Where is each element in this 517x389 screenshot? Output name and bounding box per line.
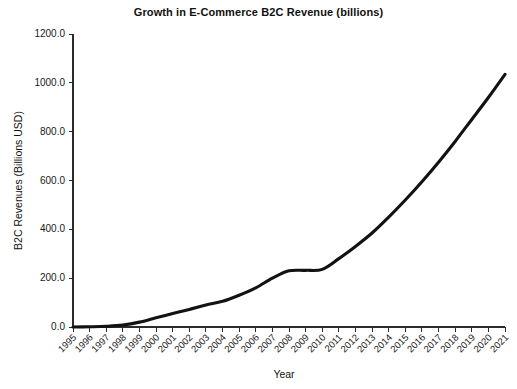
x-axis-title: Year: [273, 368, 295, 380]
y-tick-label: 1200.0: [34, 28, 65, 39]
y-tick-label: 800.0: [40, 126, 65, 137]
y-tick-label: 1000.0: [34, 77, 65, 88]
y-tick-label: 600.0: [40, 175, 65, 186]
line-chart-plot: 0.0200.0400.0600.0800.01000.01200.0 1995…: [0, 0, 517, 389]
revenue-series-line: [73, 74, 505, 327]
y-axis-title: B2C Revenues (Billions USD): [12, 111, 24, 250]
y-tick-label: 400.0: [40, 223, 65, 234]
y-axis-ticks: 0.0200.0400.0600.0800.01000.01200.0: [34, 28, 73, 332]
x-tick-label: 2021: [488, 332, 511, 355]
y-tick-label: 0.0: [51, 321, 65, 332]
chart-container: Growth in E-Commerce B2C Revenue (billio…: [0, 0, 517, 389]
y-tick-label: 200.0: [40, 272, 65, 283]
x-axis-ticks: 1995199619971998199920002001200220032004…: [56, 327, 511, 354]
